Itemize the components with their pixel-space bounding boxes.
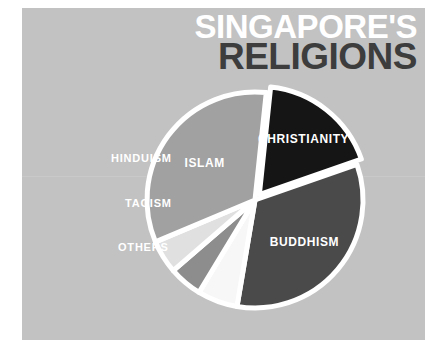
pie-slice-label-christianity: CHRISTIANITY [258,132,349,146]
pie-slice-label-others: OTHERS [118,241,169,253]
chart-canvas: SINGAPORE'S RELIGIONS CHRISTIANITYBUDDHI… [0,0,445,362]
pie-slice-label-buddhism: BUDDHISM [270,235,339,249]
pie-slice-label-islam: ISLAM [185,156,225,170]
pie-chart-svg: CHRISTIANITYBUDDHISMOTHERSTAOISMHINDUISM… [0,0,445,362]
pie-slice-group [147,87,363,308]
pie-chart: CHRISTIANITYBUDDHISMOTHERSTAOISMHINDUISM… [0,0,445,362]
pie-slice-label-hinduism: HINDUISM [111,152,172,164]
pie-slice-label-taoism: TAOISM [125,197,172,209]
